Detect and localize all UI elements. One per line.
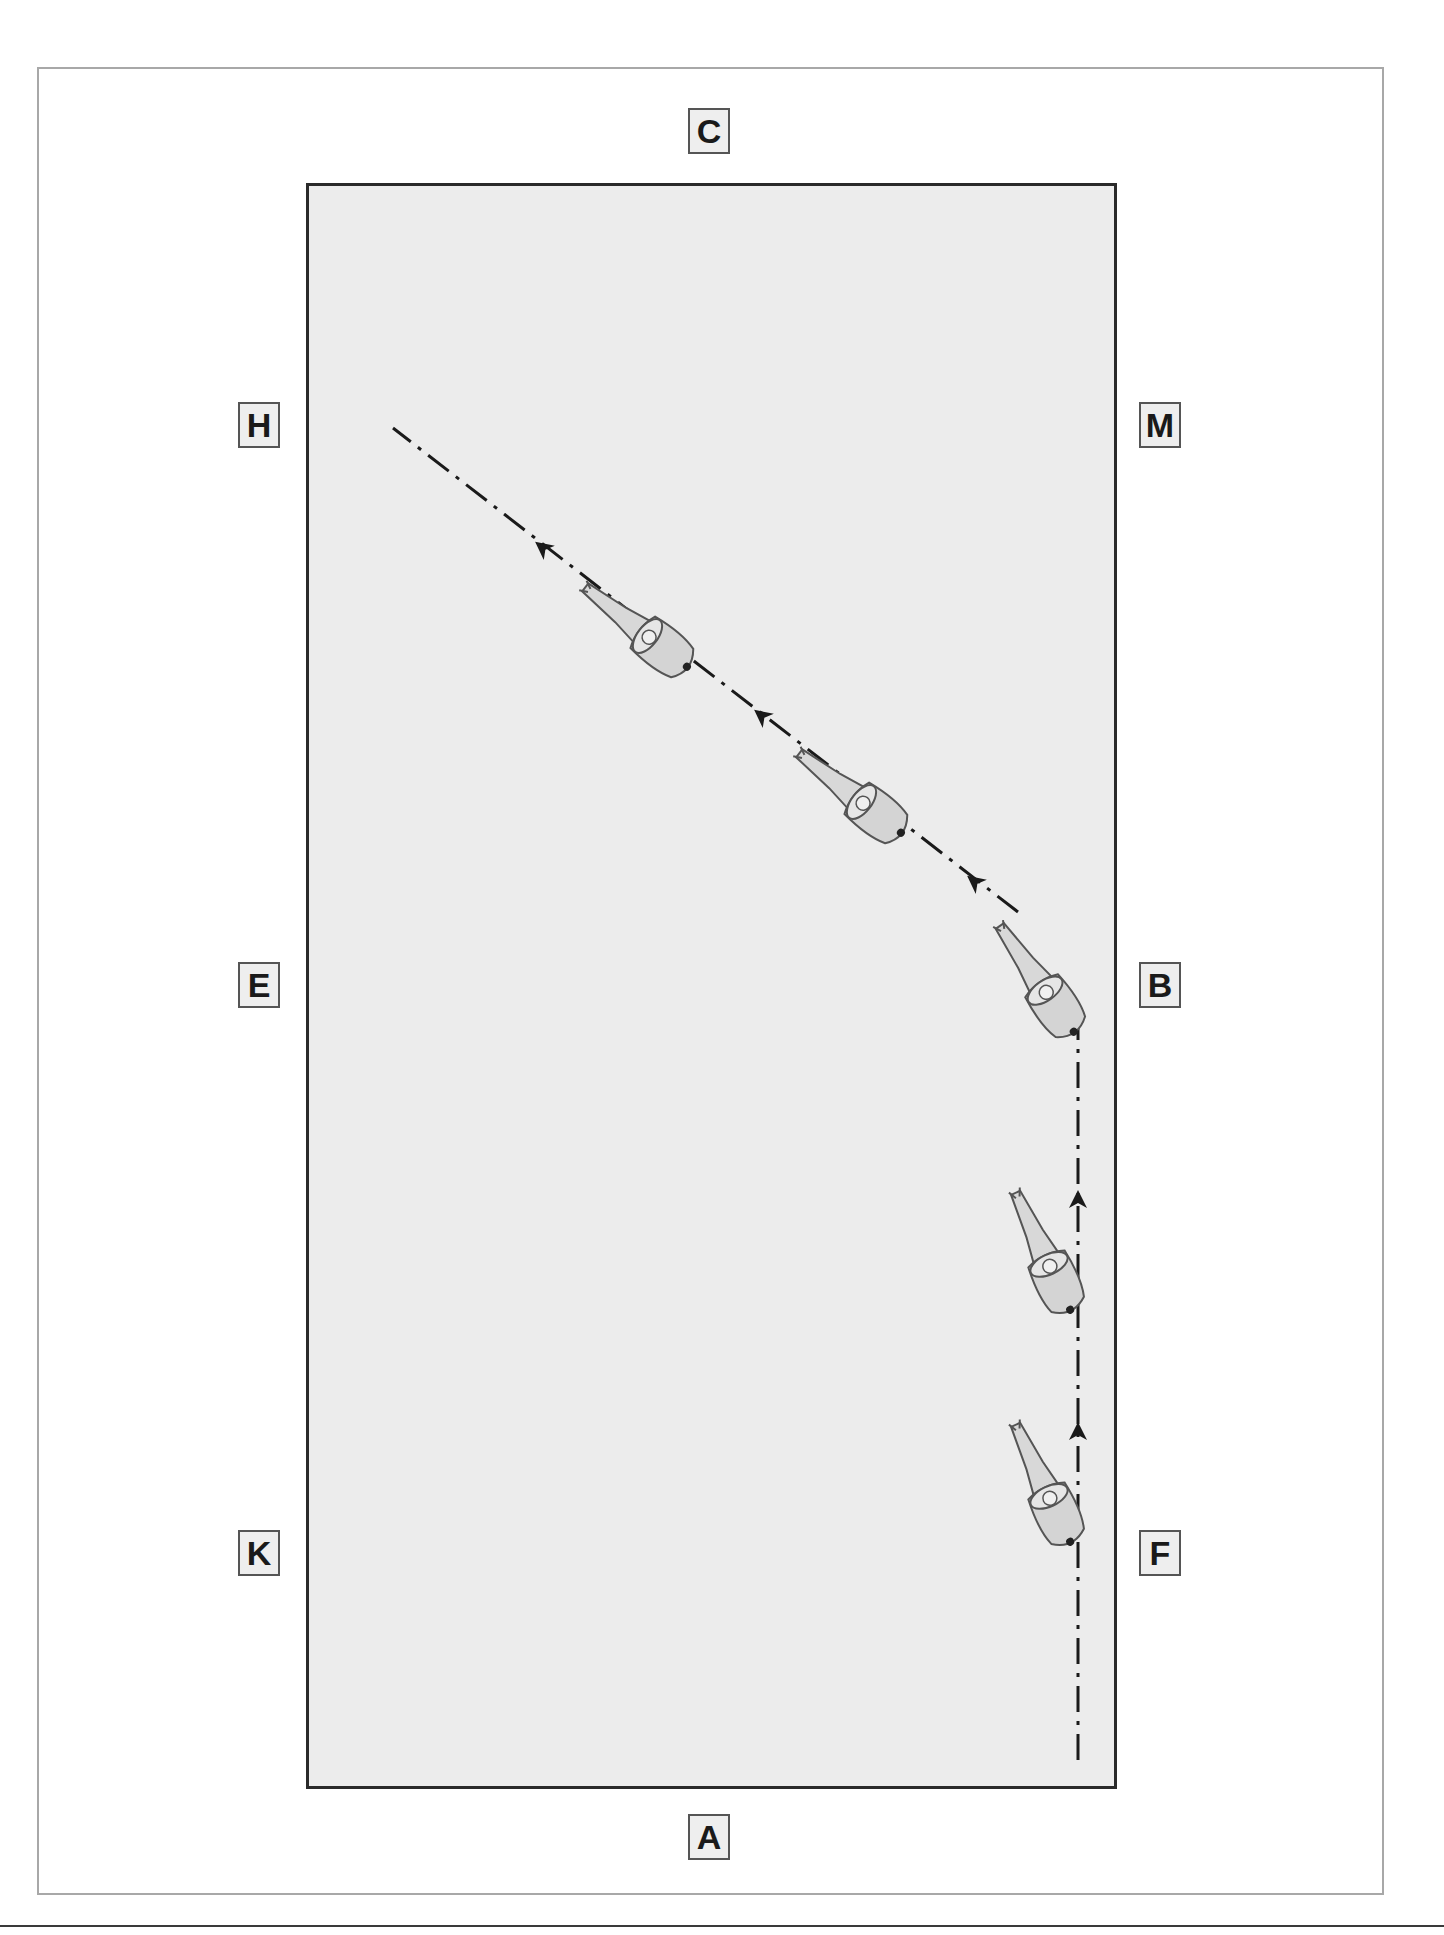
movement-path-layer (0, 0, 1444, 1935)
direction-arrow-icon (1069, 1190, 1087, 1208)
horse-rider-icon (570, 568, 704, 686)
direction-arrow-icon (749, 703, 774, 728)
path-diagonal-segment (393, 428, 1018, 912)
horse-rider-icon (980, 911, 1093, 1047)
horse-rider-icon (784, 734, 918, 852)
direction-arrow-icon (1069, 1422, 1087, 1440)
